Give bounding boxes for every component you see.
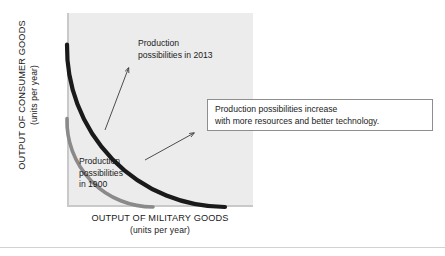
curve-label-1900: Production possibilities in 1900 [79, 156, 149, 191]
callout-line1: Production possibilities increase [215, 104, 426, 116]
curve-label-1900-line3: in 1900 [79, 179, 149, 191]
x-axis-title: OUTPUT OF MILITARY GOODS (units per year… [67, 212, 253, 236]
y-axis-title: OUTPUT OF CONSUMER GOODS (units per year… [17, 0, 51, 195]
x-axis-title-main: OUTPUT OF MILITARY GOODS [67, 212, 253, 224]
curve-label-1900-line1: Production [79, 156, 149, 168]
outward-shift-arrow-lower [145, 133, 194, 160]
y-axis-title-main: OUTPUT OF CONSUMER GOODS [17, 0, 29, 195]
bottom-divider [0, 247, 445, 248]
curve-label-1900-line2: possibilities [79, 168, 149, 180]
curve-label-2013-line1: Production [138, 38, 234, 50]
callout-box: Production possibilities increase with m… [207, 99, 433, 131]
x-axis-subtitle: (units per year) [67, 224, 253, 236]
outward-shift-arrow-upper [105, 68, 129, 130]
production-possibilities-frontier-figure: OUTPUT OF CONSUMER GOODS (units per year… [0, 0, 445, 256]
curve-label-2013-line2: possibilities in 2013 [138, 50, 234, 62]
curve-label-2013: Production possibilities in 2013 [138, 38, 234, 61]
callout-line2: with more resources and better technolog… [215, 116, 426, 128]
y-axis-subtitle: (units per year) [29, 0, 41, 195]
